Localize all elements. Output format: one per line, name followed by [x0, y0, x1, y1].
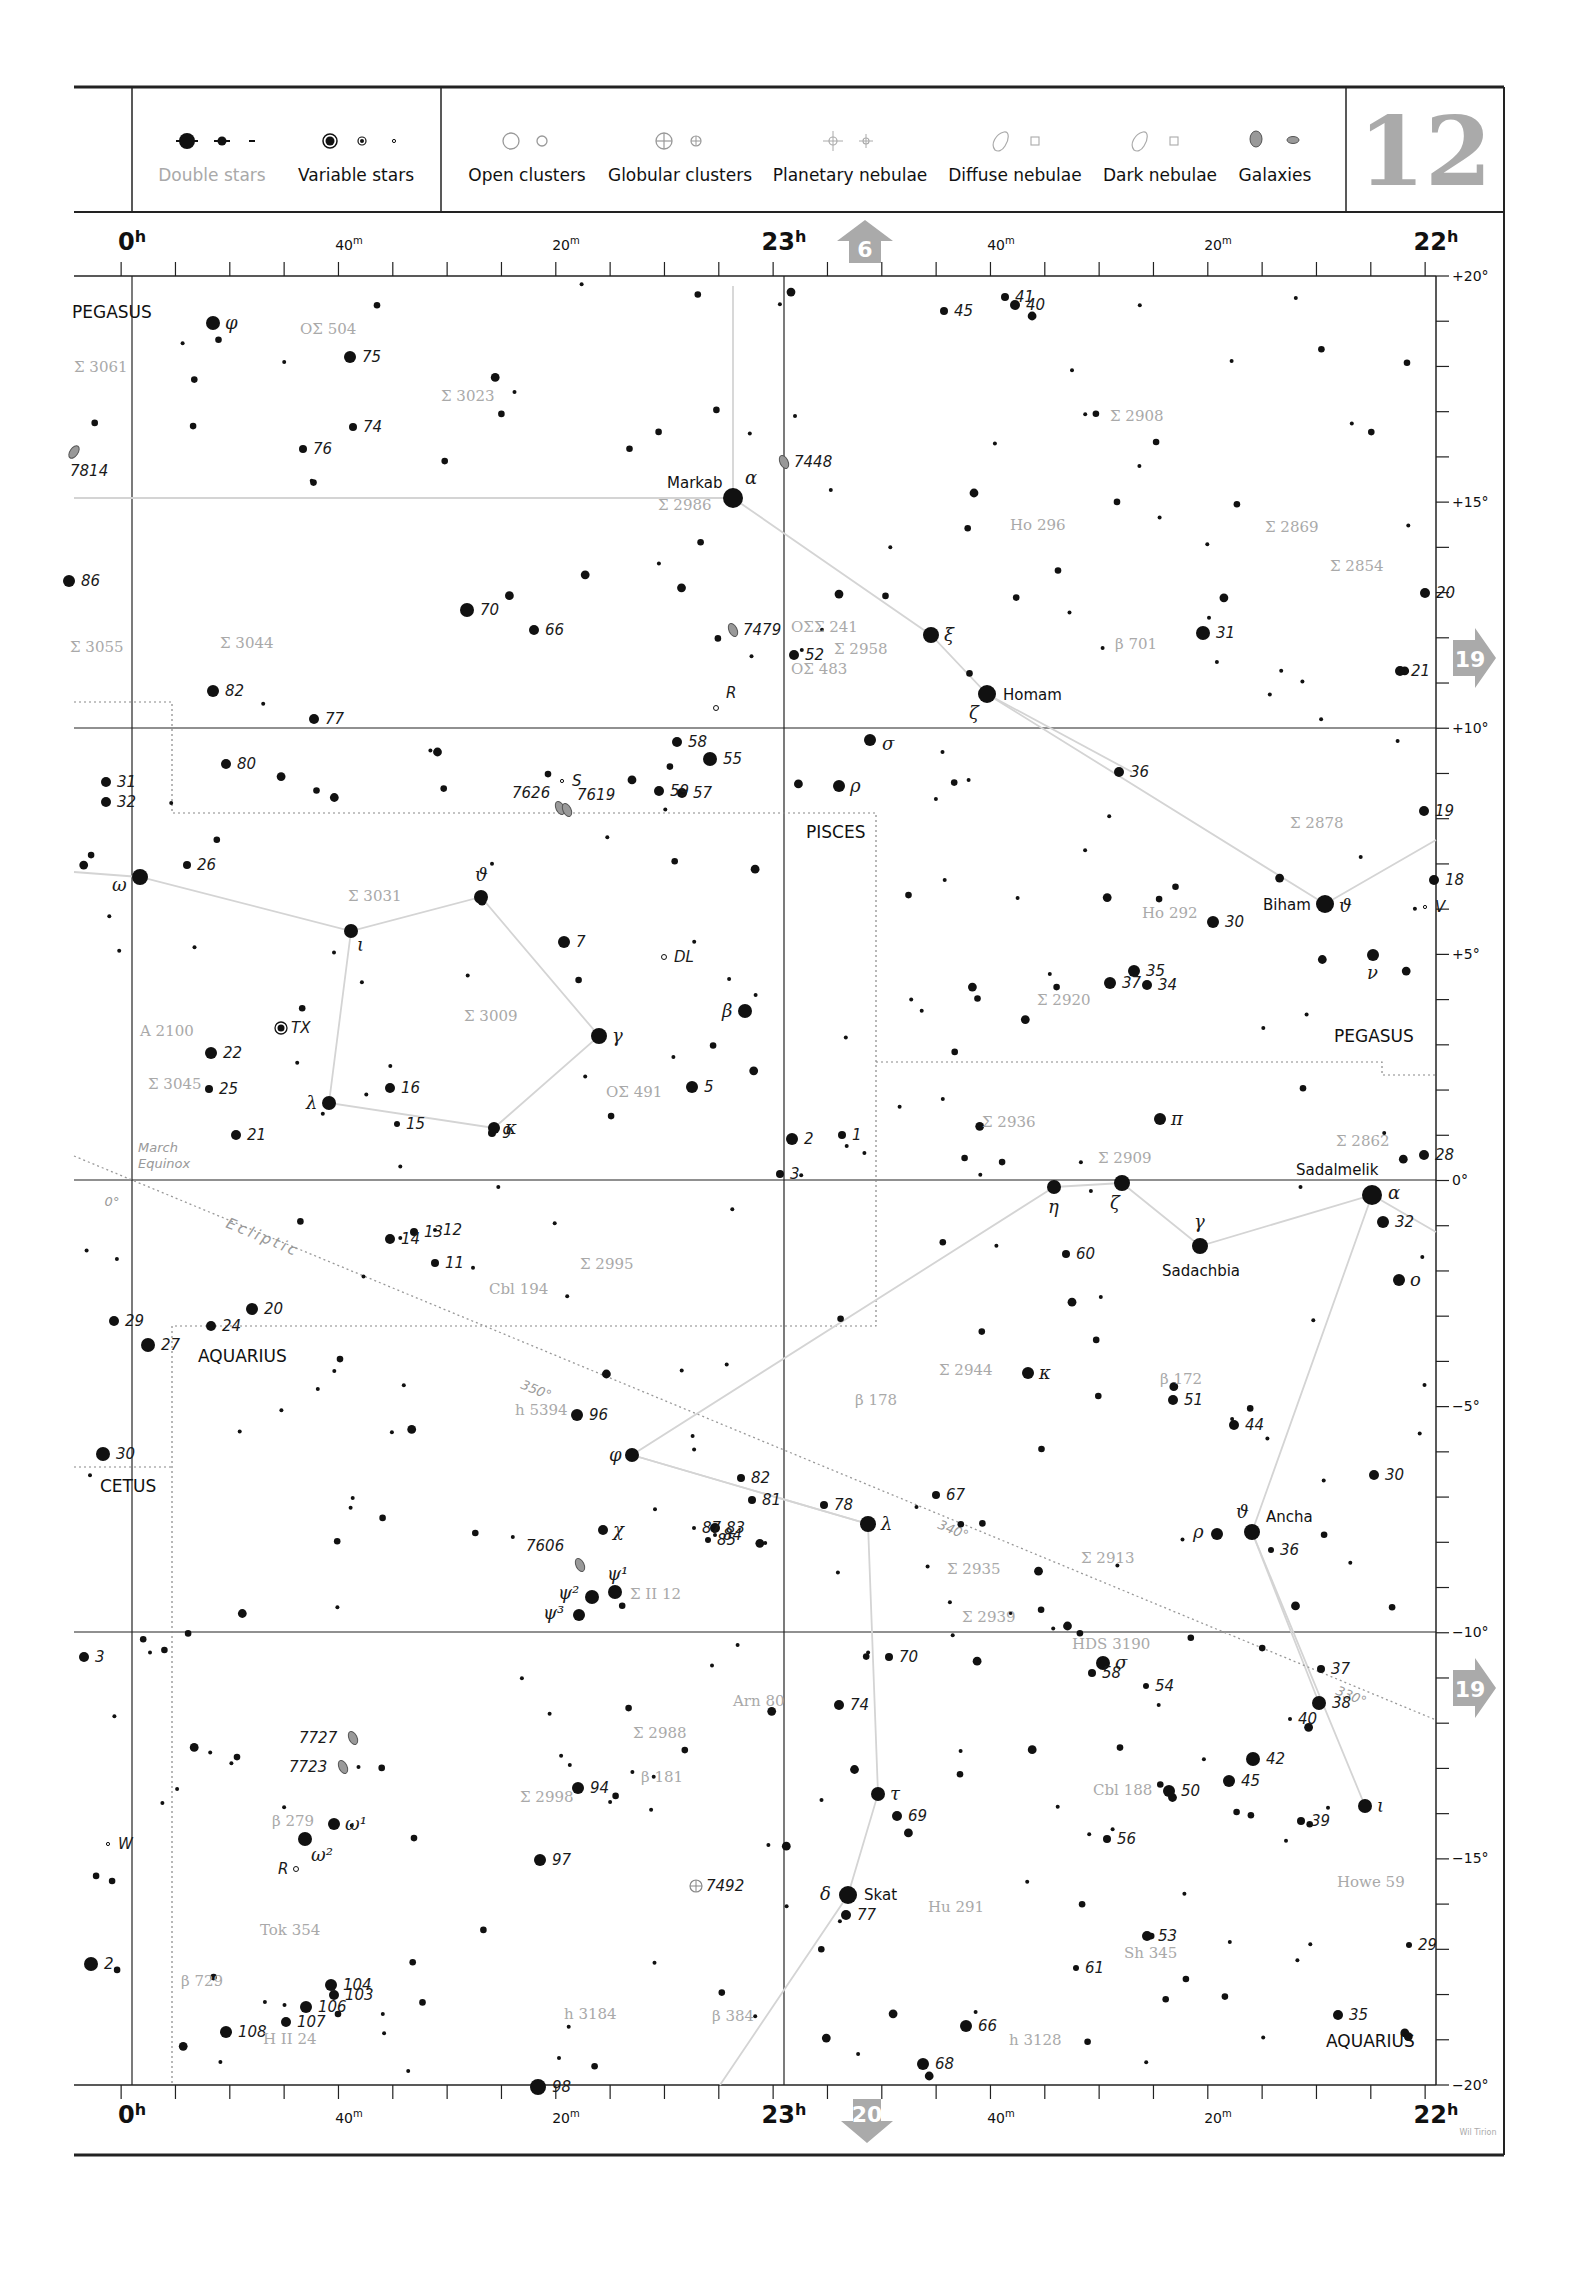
- greek-designation: ζ: [1110, 1192, 1121, 1213]
- greek-designation: λ: [305, 1092, 317, 1113]
- star-dot: [328, 1818, 340, 1830]
- star-dot: [300, 2001, 312, 2013]
- nav-right-arrow-upper[interactable]: 19: [1453, 628, 1496, 688]
- flamsteed-number: 34: [1158, 976, 1177, 994]
- double-star-label: Σ 2862: [1336, 1132, 1390, 1150]
- star-dot: [1114, 767, 1124, 777]
- double-star-label: Σ 2995: [580, 1255, 634, 1273]
- proper-star-name: Skat: [864, 1886, 897, 1904]
- variable-star-icon: [714, 706, 719, 711]
- galaxy-icon: [346, 1730, 359, 1746]
- star-dot: [349, 423, 357, 431]
- deep-sky-label: 7606: [526, 1537, 564, 1555]
- flamsteed-number: 58: [688, 733, 707, 751]
- variable-star-label: S: [572, 772, 582, 790]
- star-dot: [1229, 1420, 1239, 1430]
- ra-label: 23h: [762, 2100, 807, 2129]
- star-dot: [1047, 1180, 1061, 1194]
- greek-designation: φ: [225, 312, 238, 333]
- constellation-name: PEGASUS: [1334, 1026, 1414, 1046]
- double-star-label: β 181: [641, 1768, 683, 1786]
- star-dot: [705, 1537, 711, 1543]
- star-dot: [864, 734, 876, 746]
- star-dot: [529, 625, 539, 635]
- greek-designation: δ: [820, 1883, 831, 1904]
- star-dot: [839, 1886, 857, 1904]
- star-dot: [834, 1700, 844, 1710]
- ra-label: 20m: [1204, 235, 1232, 253]
- flamsteed-number: 21: [1411, 662, 1430, 680]
- flamsteed-number: 78: [834, 1496, 853, 1514]
- flamsteed-number: 103: [345, 1986, 374, 2004]
- flamsteed-number: 7: [576, 933, 586, 951]
- flamsteed-number: 3: [790, 1165, 800, 1183]
- double-star-label: β 701: [1115, 635, 1157, 653]
- double-star-label: Σ 3031: [348, 887, 402, 905]
- nav-right-arrow-lower[interactable]: 19: [1453, 1658, 1496, 1718]
- double-star-label: Cbl 188: [1093, 1781, 1152, 1799]
- star-dot: [625, 1448, 639, 1462]
- variable-star-icon: [560, 779, 563, 782]
- double-star-label: Σ 2988: [633, 1724, 687, 1742]
- star-dot: [598, 1525, 608, 1535]
- ra-label: 23h: [762, 227, 807, 256]
- flamsteed-number: 97: [552, 1851, 572, 1869]
- star-dot: [281, 2017, 291, 2027]
- star-dot: [309, 714, 319, 724]
- flamsteed-number: 81: [762, 1491, 781, 1509]
- double-star-label: OΣ 504: [300, 320, 356, 338]
- star-dot: [591, 1028, 607, 1044]
- legend-header: Double stars Variable stars Open cluster…: [74, 87, 1504, 212]
- flamsteed-number: 18: [1445, 871, 1464, 889]
- flamsteed-number: 51: [1184, 1391, 1203, 1409]
- greek-designation: λ: [880, 1513, 892, 1534]
- globular-cluster-icon: [690, 1880, 702, 1892]
- legend-label-dark-nebulae: Dark nebulae: [1103, 165, 1217, 185]
- flamsteed-number: 44: [1245, 1416, 1264, 1434]
- ra-label: 40m: [335, 235, 363, 253]
- flamsteed-number: 56: [1117, 1830, 1136, 1848]
- nav-down-arrow[interactable]: 20: [841, 2099, 893, 2143]
- double-star-label: β 279: [272, 1812, 314, 1830]
- flamsteed-number: 35: [1349, 2006, 1368, 2024]
- ra-label: 0h: [118, 227, 146, 256]
- star-dot: [978, 685, 996, 703]
- star-dot: [530, 2079, 546, 2095]
- legend-label-double-stars: Double stars: [158, 165, 266, 185]
- flamsteed-number: 30: [1225, 913, 1244, 931]
- double-star-label: OΣ 483: [791, 660, 847, 678]
- flamsteed-number: 61: [1085, 1959, 1104, 1977]
- flamsteed-number: 74: [850, 1696, 869, 1714]
- variable-star-legend-icon: [323, 134, 396, 148]
- flamsteed-number: 82: [225, 682, 244, 700]
- nav-up-arrow[interactable]: 6: [837, 220, 893, 263]
- deep-sky-label: 7626: [512, 784, 550, 802]
- flamsteed-number: 32: [117, 793, 136, 811]
- double-star-label: Σ 2998: [520, 1788, 574, 1806]
- double-star-label: HDS 3190: [1072, 1635, 1150, 1653]
- double-star-label: Ho 296: [1010, 516, 1066, 534]
- flamsteed-number: 2: [104, 1955, 114, 1973]
- flamsteed-number: 36: [1130, 763, 1149, 781]
- legend-label-planetary-nebulae: Planetary nebulae: [773, 165, 928, 185]
- double-star-label: Σ 2935: [947, 1560, 1001, 1578]
- star-dot: [585, 1590, 599, 1604]
- chart-page-number: 12: [1358, 95, 1492, 208]
- star-dot: [385, 1234, 395, 1244]
- star-dot: [298, 1832, 312, 1846]
- flamsteed-number: 107: [297, 2013, 326, 2031]
- star-dot: [572, 1782, 584, 1794]
- star-dot: [1419, 806, 1429, 816]
- star-dot: [431, 1259, 439, 1267]
- star-dot: [63, 575, 75, 587]
- greek-designation: ϑ: [1236, 1501, 1249, 1522]
- ra-label: 22h: [1414, 2100, 1459, 2129]
- star-dot: [841, 1910, 851, 1920]
- star-dot: [1246, 1752, 1260, 1766]
- double-star-label: β 384: [712, 2007, 754, 2025]
- flamsteed-number: 11: [445, 1254, 464, 1272]
- star-dot: [703, 752, 717, 766]
- flamsteed-number: 9: [502, 1124, 512, 1142]
- star-dot: [460, 603, 474, 617]
- flamsteed-number: 76: [313, 440, 332, 458]
